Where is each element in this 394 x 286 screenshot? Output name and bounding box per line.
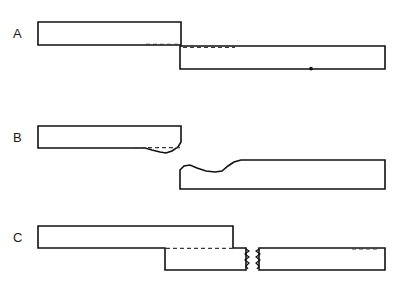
panel-a-group (38, 22, 385, 71)
figure-drawing (0, 0, 394, 286)
panel-b-group (38, 126, 385, 189)
panel-a-dot-mark (309, 67, 313, 71)
panel-c-stepped-piece (38, 226, 246, 270)
panel-b-lower-bar (180, 160, 385, 189)
panel-a-lower-bar (180, 46, 385, 69)
panel-a-upper-bar (38, 22, 181, 45)
panel-c-group (38, 226, 385, 270)
panel-b-upper-bar (38, 126, 181, 153)
panel-c-right-bar (259, 248, 385, 270)
figure-root: A B C (0, 0, 394, 286)
